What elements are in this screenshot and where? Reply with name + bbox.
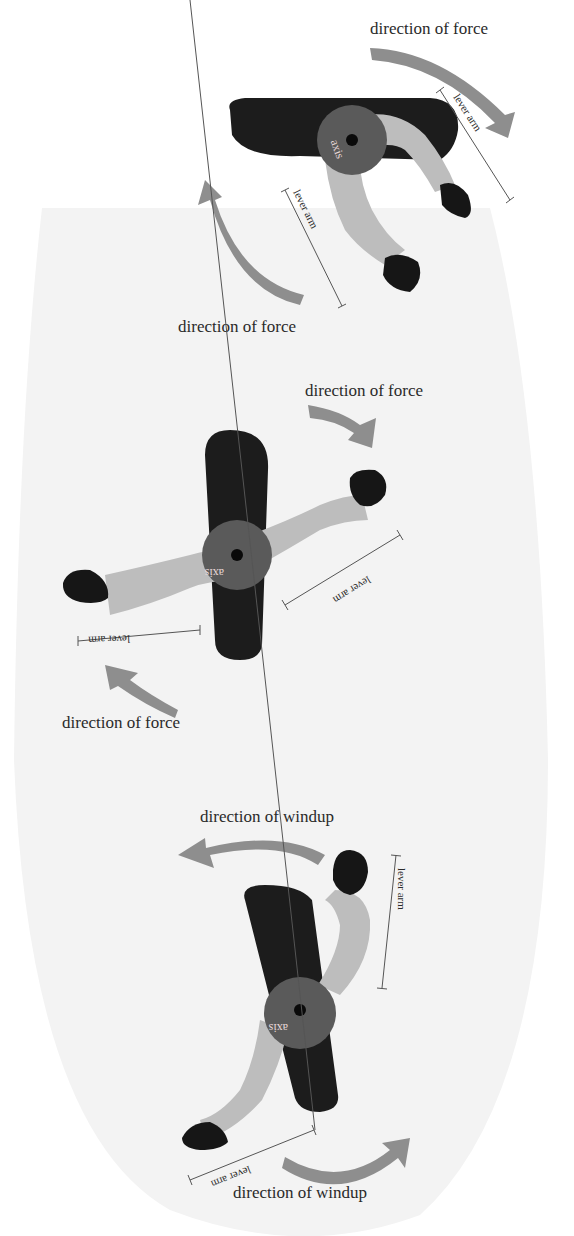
- rotation-diagram: axis lever arm lever arm direction of fo…: [0, 0, 574, 1236]
- axis-pin: [231, 549, 243, 561]
- lever-arm-label: lever arm: [396, 868, 408, 910]
- direction-of-force-label: direction of force: [305, 381, 423, 400]
- lever-arm-label: lever arm: [88, 633, 131, 646]
- axis-label: axis: [268, 1021, 288, 1035]
- direction-of-windup-label: direction of windup: [233, 1183, 367, 1202]
- direction-of-force-label: direction of force: [178, 317, 296, 336]
- direction-of-force-label: direction of force: [62, 713, 180, 732]
- axis-pin: [346, 134, 358, 146]
- axis-pin: [294, 1004, 306, 1016]
- axis-label: axis: [204, 566, 224, 580]
- direction-of-force-label: direction of force: [370, 19, 488, 38]
- direction-of-windup-label: direction of windup: [200, 807, 334, 826]
